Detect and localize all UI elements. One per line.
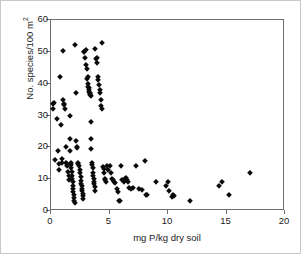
data-point — [67, 148, 73, 154]
x-axis-tick-label: 5 — [94, 216, 124, 226]
data-point — [88, 146, 94, 152]
data-point — [73, 90, 79, 96]
data-point — [67, 136, 73, 142]
y-axis-tick-label: 50 — [8, 46, 48, 56]
data-point — [142, 158, 148, 164]
data-point — [97, 90, 103, 96]
data-point — [112, 180, 118, 186]
data-point — [103, 179, 109, 185]
data-point — [226, 192, 232, 198]
x-axis-tick-label: 10 — [152, 216, 182, 226]
data-point — [84, 66, 90, 72]
data-point — [82, 55, 88, 61]
data-point — [100, 40, 106, 46]
x-axis-tick — [284, 210, 285, 214]
y-axis-tick-label: 30 — [8, 110, 48, 120]
data-point — [56, 167, 62, 173]
x-axis-tick — [226, 210, 227, 214]
data-point — [62, 106, 68, 112]
data-point — [60, 48, 66, 54]
data-point — [92, 46, 98, 52]
scatter-chart-figure: No. species/100 m2 0102030405060 0510152… — [0, 0, 301, 254]
data-point — [57, 74, 63, 80]
y-axis-tick-label: 0 — [8, 205, 48, 215]
x-axis-tick — [109, 210, 110, 214]
data-point — [55, 148, 61, 154]
y-axis-tick-label: 60 — [8, 14, 48, 24]
x-axis-tick-label: 15 — [211, 216, 241, 226]
data-point — [88, 119, 94, 125]
data-point — [153, 179, 159, 185]
data-point — [72, 200, 78, 206]
data-point — [94, 55, 100, 61]
plot-area — [50, 19, 284, 210]
data-point — [98, 97, 104, 103]
data-point — [165, 179, 171, 185]
x-axis-tick-label: 0 — [35, 216, 65, 226]
data-point — [187, 198, 193, 204]
data-point — [58, 122, 64, 128]
data-point — [133, 163, 139, 169]
data-point — [80, 196, 86, 202]
y-axis-tick-label: 10 — [8, 173, 48, 183]
y-axis-tick-label: 20 — [8, 141, 48, 151]
x-axis-tick-label: 20 — [269, 216, 299, 226]
y-axis-label-text: No. species/100 m — [24, 21, 35, 100]
data-point — [67, 113, 73, 119]
data-point — [118, 163, 124, 169]
data-point — [88, 136, 94, 142]
data-point — [247, 170, 253, 176]
data-point — [72, 42, 78, 48]
data-point — [115, 189, 121, 195]
x-axis-label: mg P/kg dry soil — [50, 232, 284, 243]
data-point — [88, 93, 94, 99]
x-axis-tick — [50, 210, 51, 214]
data-points-layer — [51, 20, 283, 209]
data-point — [92, 188, 98, 194]
data-point — [99, 106, 105, 112]
x-axis-tick — [167, 210, 168, 214]
y-axis-tick-label: 40 — [8, 78, 48, 88]
data-point — [54, 116, 60, 122]
data-point — [50, 106, 56, 112]
